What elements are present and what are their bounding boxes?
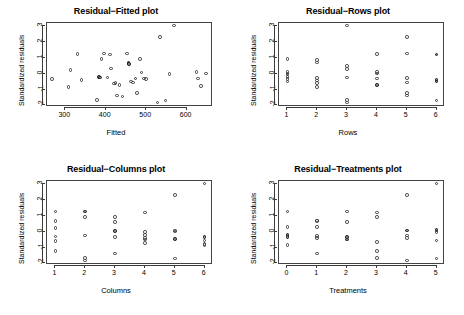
data-point	[315, 236, 319, 240]
data-point	[345, 76, 349, 80]
data-point	[315, 85, 319, 89]
data-point	[95, 98, 99, 102]
y-tick-label-wrap: 0	[32, 227, 40, 235]
data-point	[345, 220, 349, 224]
y-axis-label: Standardized residuals	[250, 35, 257, 106]
x-tick-label: 6	[434, 111, 438, 118]
data-point	[199, 84, 203, 88]
data-point	[100, 57, 104, 61]
data-point	[168, 72, 172, 76]
data-point	[435, 239, 439, 243]
x-axis-label: Treatments	[232, 286, 464, 295]
data-point	[405, 52, 409, 56]
data-point	[173, 193, 177, 197]
data-point	[158, 35, 162, 39]
plot-title: Residual−Treatments plot	[232, 164, 464, 174]
data-point	[113, 215, 117, 219]
data-point	[67, 85, 71, 89]
data-point	[405, 81, 409, 85]
x-tick-label: 3	[344, 111, 348, 118]
x-axis-line	[286, 107, 435, 108]
x-tick-label: 3	[374, 269, 378, 276]
data-point	[135, 91, 139, 95]
plot-panel-1: Residual−Fitted plot300400500600-2-10123…	[0, 0, 232, 157]
data-point	[375, 240, 379, 244]
plot-area	[278, 22, 444, 106]
y-tick-label-wrap: -2	[264, 100, 272, 108]
data-point	[106, 76, 110, 80]
y-tick-label-wrap: -1	[32, 243, 40, 251]
y-tick-label-wrap: -2	[32, 100, 40, 108]
data-point	[54, 219, 58, 223]
data-point	[83, 210, 87, 214]
plot-title: Residual−Rows plot	[232, 6, 464, 16]
data-point	[203, 243, 207, 247]
data-point	[375, 77, 379, 81]
x-tick-label: 5	[172, 269, 176, 276]
data-point	[80, 78, 84, 82]
data-point	[286, 80, 290, 84]
data-point	[108, 53, 112, 57]
x-axis-line	[64, 107, 185, 108]
data-point	[164, 99, 168, 103]
data-point	[435, 80, 439, 84]
data-point	[113, 252, 117, 256]
data-point	[345, 238, 349, 242]
y-tick-label-wrap: 1	[264, 53, 272, 61]
data-point	[54, 235, 58, 239]
data-point	[131, 81, 135, 85]
data-point	[83, 215, 87, 219]
x-axis-label: Columns	[0, 286, 232, 295]
data-point	[286, 243, 290, 247]
data-point	[435, 53, 439, 57]
x-tick-mark	[436, 265, 437, 268]
data-point	[405, 259, 409, 263]
data-point	[127, 62, 131, 66]
data-point	[203, 182, 207, 186]
data-point	[109, 67, 113, 71]
x-tick-label: 3	[112, 269, 116, 276]
y-tick-label-wrap: 3	[264, 179, 272, 187]
plot-panel-4: Residual−Treatments plot012345-2-10123Tr…	[232, 158, 464, 315]
x-tick-label: 6	[202, 269, 206, 276]
y-axis-line	[42, 183, 43, 262]
data-point	[140, 71, 144, 75]
data-point	[345, 210, 349, 214]
x-tick-label: 400	[99, 111, 111, 118]
plot-title: Residual−Columns plot	[0, 164, 232, 174]
data-point	[54, 239, 58, 243]
y-tick-label-wrap: -1	[32, 85, 40, 93]
y-axis-label: Standardized residuals	[18, 35, 25, 106]
data-point	[286, 57, 290, 61]
x-tick-label: 2	[82, 269, 86, 276]
y-tick-label-wrap: -2	[32, 258, 40, 266]
data-point	[76, 52, 80, 56]
data-point	[98, 76, 102, 80]
data-point	[54, 249, 58, 253]
plot-area	[46, 22, 212, 106]
x-tick-label: 300	[58, 111, 70, 118]
data-point	[173, 237, 177, 241]
data-point	[156, 101, 160, 105]
data-point	[113, 235, 117, 239]
y-axis-label: Standardized residuals	[18, 193, 25, 264]
y-axis-label: Standardized residuals	[250, 193, 257, 264]
y-axis-line	[42, 25, 43, 104]
data-point	[405, 76, 409, 80]
x-tick-mark	[186, 107, 187, 110]
data-point	[405, 229, 409, 233]
data-point	[138, 57, 142, 61]
y-tick-label-wrap: 2	[264, 195, 272, 203]
plot-title: Residual−Fitted plot	[0, 6, 232, 16]
residual-plots-figure: Residual−Fitted plot300400500600-2-10123…	[0, 0, 464, 315]
data-point	[69, 68, 73, 72]
y-tick-label-wrap: -1	[264, 243, 272, 251]
data-point	[195, 70, 199, 74]
data-point	[113, 229, 117, 233]
y-tick-label-wrap: -2	[264, 258, 272, 266]
data-point	[134, 77, 138, 81]
y-tick-label-wrap: 2	[32, 195, 40, 203]
data-point	[375, 215, 379, 219]
x-axis-line	[286, 265, 435, 266]
data-point	[286, 210, 290, 214]
